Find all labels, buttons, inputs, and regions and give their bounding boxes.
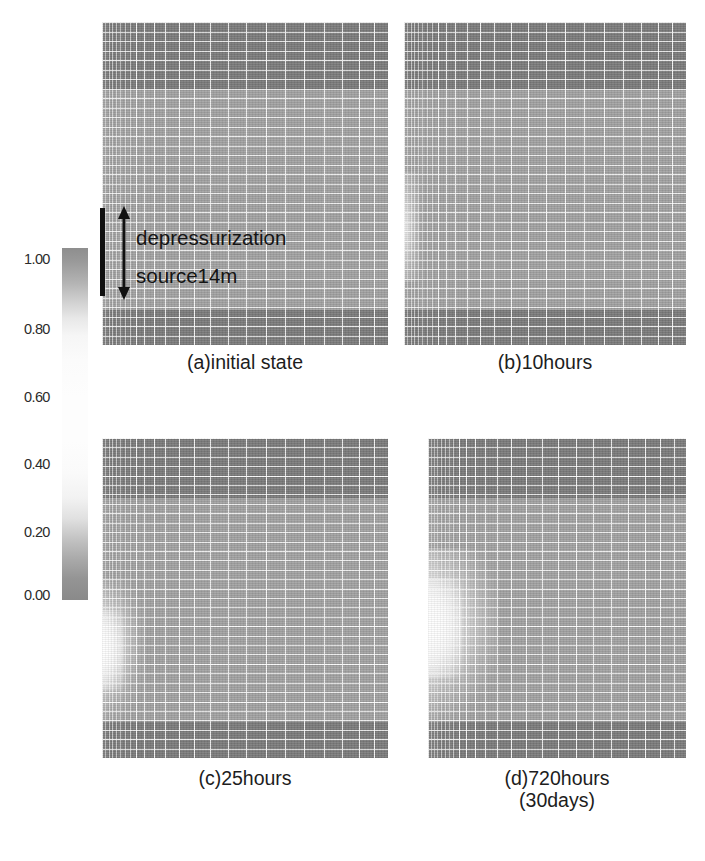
panel-b-caption: (b)10hours <box>404 352 686 374</box>
annotation-line-2: source14m <box>136 266 237 287</box>
figure-canvas: 1.00 0.80 0.60 0.40 0.20 0.00 (a)initial… <box>0 0 705 861</box>
colorbar-tick-4: 0.40 <box>24 457 60 472</box>
colorbar-tick-1: 1.00 <box>24 252 60 267</box>
colorbar: 1.00 0.80 0.60 0.40 0.20 0.00 <box>24 248 98 600</box>
colorbar-gradient <box>62 248 88 600</box>
colorbar-tick-6: 0.00 <box>24 588 60 603</box>
panel-c-vgrid <box>102 438 388 758</box>
panel-c-25hours <box>102 438 388 758</box>
panel-d-caption: (d)720hours (30days) <box>428 768 686 812</box>
colorbar-tick-2: 0.80 <box>24 322 60 337</box>
panel-d-vgrid <box>428 438 686 758</box>
panel-d-720hours <box>428 438 686 758</box>
colorbar-tick-5: 0.20 <box>24 525 60 540</box>
double-arrow-icon <box>114 206 134 300</box>
depressurization-annotation: depressurization source14m <box>100 206 330 302</box>
panel-b-10hours <box>404 22 686 345</box>
panel-a-caption: (a)initial state <box>102 352 388 374</box>
well-bar <box>100 208 105 296</box>
annotation-line-1: depressurization <box>136 228 286 249</box>
panel-c-caption: (c)25hours <box>102 768 388 790</box>
colorbar-tick-3: 0.60 <box>24 390 60 405</box>
panel-b-vgrid <box>404 22 686 345</box>
